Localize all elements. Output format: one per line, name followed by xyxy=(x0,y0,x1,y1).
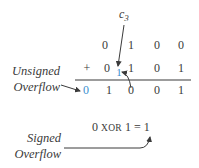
row2-digit: 0 xyxy=(151,62,163,74)
result-digit: 0 xyxy=(125,84,137,96)
unsigned-label-line2: Overflow xyxy=(4,79,60,95)
xor-equals: = xyxy=(134,120,141,134)
row2-digit: 1 xyxy=(125,62,137,74)
signed-overflow-arrow xyxy=(64,137,150,148)
xor-op: XOR xyxy=(101,123,122,133)
row1-digit: 0 xyxy=(175,39,187,51)
result-digit: 1 xyxy=(103,84,115,96)
row2-digit: 0 xyxy=(101,62,113,74)
xor-expression: 0 XOR 1 = 1 xyxy=(92,121,150,134)
signed-overflow-label: Signed Overflow xyxy=(4,130,61,162)
result-digit: 1 xyxy=(175,84,187,96)
xor-left: 0 xyxy=(92,120,98,134)
result-digit-overflow: 0 xyxy=(80,84,92,96)
carry-arrow xyxy=(118,25,124,66)
row1-digit: 0 xyxy=(99,39,111,51)
unsigned-overflow-label: Unsigned Overflow xyxy=(4,63,60,95)
row1-digit: 1 xyxy=(125,39,137,51)
unsigned-overflow-arrow xyxy=(61,85,80,91)
row1-digit: 0 xyxy=(151,39,163,51)
carry-label: c3 xyxy=(119,8,129,24)
unsigned-label-line1: Unsigned xyxy=(4,63,60,79)
carry-bit: 1 xyxy=(113,66,125,78)
result-digit: 0 xyxy=(151,84,163,96)
signed-label-line1: Signed xyxy=(4,130,61,146)
plus-operator: + xyxy=(81,62,93,74)
signed-label-line2: Overflow xyxy=(4,146,61,162)
xor-result: 1 xyxy=(144,120,150,134)
carry-label-subscript: 3 xyxy=(124,13,129,23)
row2-digit: 1 xyxy=(175,62,187,74)
xor-right: 1 xyxy=(125,120,131,134)
